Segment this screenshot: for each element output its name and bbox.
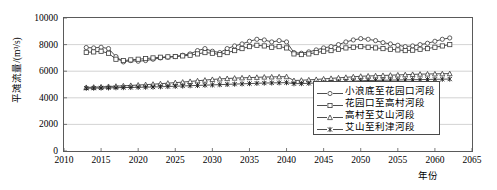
y-tick-label: 10000 xyxy=(2,13,58,23)
y-tick-label: 2000 xyxy=(2,119,58,129)
x-tick-label: 2045 xyxy=(314,155,333,165)
x-tick-label: 2050 xyxy=(351,155,370,165)
legend-marker-triangle-icon xyxy=(316,109,344,120)
x-tick-label: 2040 xyxy=(277,155,296,165)
legend-marker-xstar-icon xyxy=(316,121,344,132)
chart-figure: 平滩流量/(m³/s) 年份 0200040006000800010000 20… xyxy=(0,0,497,190)
legend-marker-circle-icon xyxy=(316,85,344,96)
x-tick-label: 2015 xyxy=(92,155,111,165)
legend-label: 艾山至利津河段 xyxy=(344,119,415,133)
x-tick-label: 2035 xyxy=(240,155,259,165)
y-tick-label: 6000 xyxy=(2,66,58,76)
x-tick-label: 2025 xyxy=(166,155,185,165)
x-tick-label: 2020 xyxy=(129,155,148,165)
series-line xyxy=(86,45,450,61)
y-tick-label: 8000 xyxy=(2,40,58,50)
x-tick-label: 2010 xyxy=(55,155,74,165)
y-tick-label: 4000 xyxy=(2,93,58,103)
x-tick-label: 2060 xyxy=(425,155,444,165)
x-tick-label: 2055 xyxy=(388,155,407,165)
x-tick-label: 2065 xyxy=(463,155,482,165)
legend-item-4[interactable]: 艾山至利津河段 xyxy=(316,120,435,132)
y-tick-label: 0 xyxy=(2,146,58,156)
legend: 小浪底至花园口河段花园口至高村河段高村至艾山河段艾山至利津河段 xyxy=(313,81,440,135)
x-tick-label: 2030 xyxy=(203,155,222,165)
x-axis-title: 年份 xyxy=(418,168,438,182)
legend-marker-square-icon xyxy=(316,97,344,108)
